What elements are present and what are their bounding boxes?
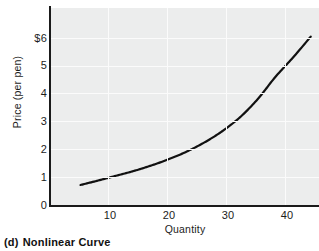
x-axis-title: Quantity [51,223,319,235]
x-tick-label-40: 40 [267,209,307,221]
gridline-horizontal [51,121,319,122]
caption-tag: (d) [4,236,19,248]
caption-text: Nonlinear Curve [23,236,111,248]
y-axis-line [49,6,51,207]
x-tick-label-10: 10 [90,209,130,221]
gridline-horizontal [51,66,319,67]
figure-caption: (d)Nonlinear Curve [4,236,111,248]
nonlinear-curve-figure: $6 5 4 3 2 1 0 10 20 30 40 Price (per pe… [0,0,319,251]
gridline-horizontal [51,177,319,178]
x-axis-line [49,205,319,207]
y-axis-title: Price (per pen) [11,37,23,147]
y-tick-label-2: 2 [1,144,47,155]
y-tick-label-4: 4 [1,88,47,99]
gridline-horizontal [51,38,319,39]
gridline-horizontal [51,149,319,150]
x-tick-label-20: 20 [149,209,189,221]
gridline-horizontal [51,93,319,94]
y-tick-label-3: 3 [1,116,47,127]
x-tick-label-30: 30 [208,209,248,221]
y-tick-label-5: 5 [1,60,47,71]
plot-area [51,8,319,205]
y-tick-label-1: 1 [1,172,47,183]
y-tick-label-0: 0 [1,200,47,211]
y-axis-ticks: $6 5 4 3 2 1 0 [0,0,47,251]
y-tick-label-6: $6 [1,33,47,44]
